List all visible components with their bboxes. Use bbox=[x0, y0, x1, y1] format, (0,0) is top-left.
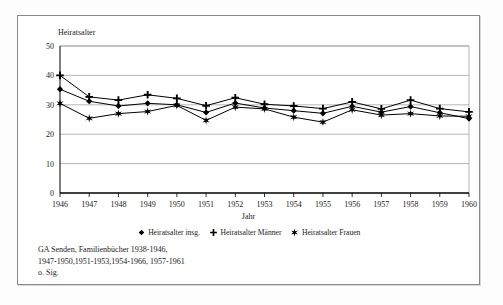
footnote-line: 1947-1950,1951-1953,1954-1966, 1957-1961 bbox=[38, 256, 458, 268]
x-tick-label: 1955 bbox=[315, 200, 331, 209]
x-tick-label: 1946 bbox=[52, 200, 68, 209]
x-tick-label: 1953 bbox=[257, 200, 273, 209]
footnote-line: GA Senden, Familienbücher 1938-1946, bbox=[38, 244, 458, 256]
source-footnote: GA Senden, Familienbücher 1938-1946, 194… bbox=[38, 244, 458, 279]
y-tick-label: 40 bbox=[46, 71, 54, 80]
legend-label: Heiratsalter insg. bbox=[148, 228, 200, 237]
data-point bbox=[290, 102, 298, 110]
x-tick-label: 1958 bbox=[403, 200, 419, 209]
x-tick-label: 1952 bbox=[227, 200, 243, 209]
y-tick-label: 10 bbox=[46, 160, 54, 169]
data-point bbox=[203, 109, 209, 115]
legend-item: Heiratsalter Frauen bbox=[290, 228, 360, 237]
data-point bbox=[407, 103, 413, 109]
data-point bbox=[319, 105, 327, 113]
data-point bbox=[407, 96, 415, 104]
x-tick-label: 1950 bbox=[169, 200, 185, 209]
data-point bbox=[231, 94, 239, 102]
x-tick-label: 1960 bbox=[461, 200, 477, 209]
data-point bbox=[57, 86, 63, 92]
y-tick-label: 50 bbox=[46, 42, 54, 51]
legend-item: Heiratsalter Männer bbox=[209, 228, 281, 237]
data-point bbox=[145, 100, 151, 106]
legend-label: Heiratsalter Männer bbox=[221, 228, 282, 237]
data-point bbox=[144, 91, 152, 99]
y-tick-label: 30 bbox=[46, 101, 54, 110]
y-tick-label: 20 bbox=[46, 130, 54, 139]
x-tick-label: 1954 bbox=[286, 200, 302, 209]
line-chart: 0102030405019461947194819491950195119521… bbox=[18, 16, 479, 216]
legend-item: Heiratsalter insg. bbox=[137, 228, 200, 237]
data-point bbox=[202, 102, 210, 110]
plus-marker bbox=[209, 228, 218, 237]
x-tick-label: 1949 bbox=[140, 200, 156, 209]
data-point bbox=[56, 99, 63, 107]
figure-frame: 0102030405019461947194819491950195119521… bbox=[17, 15, 480, 285]
x-tick-label: 1957 bbox=[373, 200, 389, 209]
x-tick-label: 1951 bbox=[198, 200, 214, 209]
plot-border bbox=[60, 46, 469, 193]
x-axis-title: Jahr bbox=[18, 212, 479, 221]
footnote-line: o. Sig. bbox=[38, 267, 458, 279]
legend-label: Heiratsalter Frauen bbox=[302, 228, 360, 237]
x-tick-label: 1956 bbox=[344, 200, 360, 209]
y-axis-title: Heiratsalter bbox=[58, 28, 95, 37]
x-tick-label: 1959 bbox=[432, 200, 448, 209]
data-point bbox=[85, 93, 93, 101]
data-point bbox=[173, 95, 181, 103]
x-tick-label: 1948 bbox=[110, 200, 126, 209]
data-point bbox=[202, 116, 209, 124]
diamond-marker bbox=[137, 228, 146, 237]
data-point bbox=[115, 96, 123, 104]
data-point bbox=[436, 105, 444, 113]
star-marker bbox=[290, 228, 299, 237]
y-tick-label: 0 bbox=[50, 189, 54, 198]
data-point bbox=[56, 72, 64, 80]
chart-legend: Heiratsalter insg.Heiratsalter MännerHei… bbox=[18, 228, 479, 237]
x-tick-label: 1947 bbox=[81, 200, 97, 209]
chart-page: 0102030405019461947194819491950195119521… bbox=[0, 0, 503, 305]
